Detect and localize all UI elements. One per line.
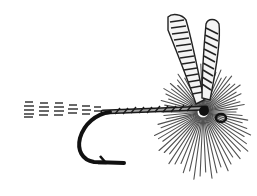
fly-illustration: Dry fly fishing fly illustration	[0, 0, 257, 196]
fly-head	[199, 106, 209, 116]
fly-drawing	[0, 0, 257, 196]
